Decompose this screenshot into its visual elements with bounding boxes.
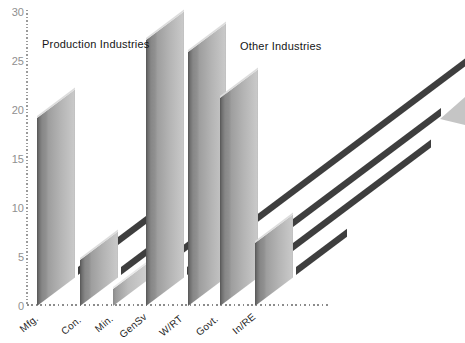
bar-mfg (37, 87, 75, 306)
y-tick-label: 15 (0, 153, 24, 165)
x-label-inre: In/RE (222, 304, 266, 343)
y-tick-label: 5 (0, 251, 24, 263)
y-tick-label: 0 (0, 300, 24, 312)
y-tick-label: 20 (0, 104, 24, 116)
x-label-govt: Govt. (185, 306, 229, 343)
y-tick-label: 30 (0, 6, 24, 18)
y-tick-label: 25 (0, 55, 24, 67)
chart-canvas: 051015202530 Mfg.Con.Min.GenSvW/RTGovt.I… (0, 0, 465, 343)
other-industries-label: Other Industries (240, 40, 321, 52)
y-tick-label: 10 (0, 202, 24, 214)
x-axis-dotted-baseline (27, 304, 330, 306)
y-axis-dotted-line (26, 10, 28, 306)
bar-gensv (146, 9, 184, 306)
arrowhead-icon (438, 94, 465, 128)
bar-govt (220, 67, 258, 306)
bar-inre (255, 212, 293, 306)
production-industries-label: Production Industries (42, 38, 150, 50)
